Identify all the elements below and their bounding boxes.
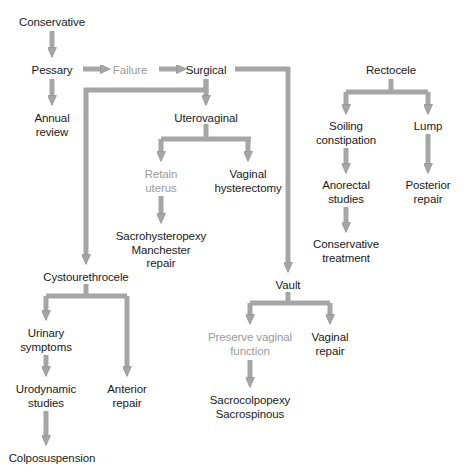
node-cystourethrocele: Cystourethrocele — [43, 271, 128, 285]
node-preserve-vaginal-function: Preserve vaginal function — [208, 331, 292, 358]
node-sacrocolpopexy: Sacrocolpopexy Sacrospinous — [210, 394, 290, 421]
node-conservative: Conservative — [19, 16, 85, 30]
edge-surgical-to-vault — [235, 69, 288, 263]
node-vault: Vault — [276, 279, 301, 293]
node-soiling-constipation: Soiling constipation — [316, 120, 376, 147]
node-urodynamic-studies: Urodynamic studies — [16, 383, 76, 410]
node-uterovaginal: Uterovaginal — [174, 112, 237, 126]
node-annual-review: Annual review — [34, 112, 69, 139]
node-urinary-symptoms: Urinary symptoms — [20, 327, 72, 354]
node-sacrohysteropexy: Sacrohysteropexy Manchester repair — [116, 230, 206, 271]
node-lump: Lump — [414, 120, 442, 134]
node-posterior-repair: Posterior repair — [405, 179, 450, 206]
flowchart-canvas: Conservative Pessary Annual review Failu… — [0, 0, 467, 475]
node-anterior-repair: Anterior repair — [107, 383, 146, 410]
node-rectocele: Rectocele — [366, 64, 416, 78]
node-pessary: Pessary — [32, 64, 73, 78]
node-vaginal-hysterectomy: Vaginal hysterectomy — [214, 168, 281, 195]
node-colposuspension: Colposuspension — [9, 452, 96, 466]
node-conservative-treatment: Conservative treatment — [313, 238, 379, 265]
node-surgical: Surgical — [186, 64, 227, 78]
node-retain-uterus: Retain uterus — [145, 168, 178, 195]
node-failure: Failure — [113, 64, 147, 78]
node-anorectal-studies: Anorectal studies — [322, 179, 370, 206]
node-vaginal-repair: Vaginal repair — [312, 331, 349, 358]
